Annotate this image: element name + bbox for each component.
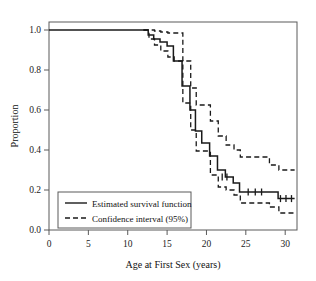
legend[interactable]: Estimated survival function Confidence i… — [58, 192, 192, 228]
y-tick-label: 1.0 — [29, 25, 41, 35]
legend-label-confidence: Confidence interval (95%) — [92, 214, 188, 224]
chart-svg: 051015202530 0.00.20.40.60.81.0 Estimate… — [0, 0, 316, 281]
y-tick-label: 0.4 — [29, 145, 41, 155]
x-axis-title: Age at First Sex (years) — [126, 259, 221, 271]
x-tick-label: 30 — [280, 239, 290, 249]
y-tick-label: 0.2 — [29, 185, 41, 195]
legend-label-estimated: Estimated survival function — [92, 199, 192, 209]
x-tick-label: 0 — [47, 239, 52, 249]
x-tick-label: 10 — [123, 239, 133, 249]
y-tick-label: 0.6 — [29, 105, 41, 115]
x-tick-label: 25 — [241, 239, 251, 249]
survival-curve-figure: 051015202530 0.00.20.40.60.81.0 Estimate… — [0, 0, 316, 281]
y-tick-label: 0.0 — [29, 225, 41, 235]
y-tick-label: 0.8 — [29, 65, 41, 75]
x-tick-label: 20 — [202, 239, 212, 249]
y-axis-title: Proportion — [9, 105, 20, 148]
x-tick-label: 5 — [86, 239, 91, 249]
x-tick-label: 15 — [162, 239, 172, 249]
